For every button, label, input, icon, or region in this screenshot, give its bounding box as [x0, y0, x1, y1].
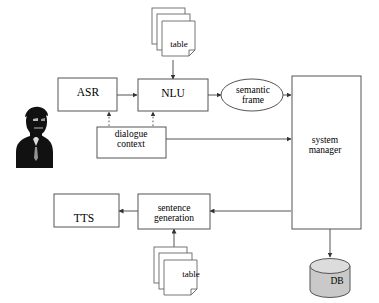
semantic-frame-ellipse: [221, 79, 283, 111]
tts-box: [54, 194, 119, 227]
diagram-canvas: [0, 0, 379, 303]
user-silhouette-icon: [16, 107, 53, 168]
db-cylinder: [310, 259, 350, 298]
nlu-box: [138, 79, 208, 111]
table-stack-bottom: [154, 247, 197, 295]
asr-box: [58, 78, 117, 111]
table-page-corner-fold: [189, 50, 195, 56]
db-top-ellipse: [310, 259, 350, 274]
table-page-corner-fold: [191, 289, 197, 295]
sentence-generation-box: [138, 194, 210, 229]
table-stack-top: [152, 8, 195, 56]
dialogue-context-box: [97, 127, 166, 158]
system-manager-box: [292, 76, 361, 229]
architecture-diagram: ASR NLU semantic frame system manager di…: [0, 0, 379, 303]
